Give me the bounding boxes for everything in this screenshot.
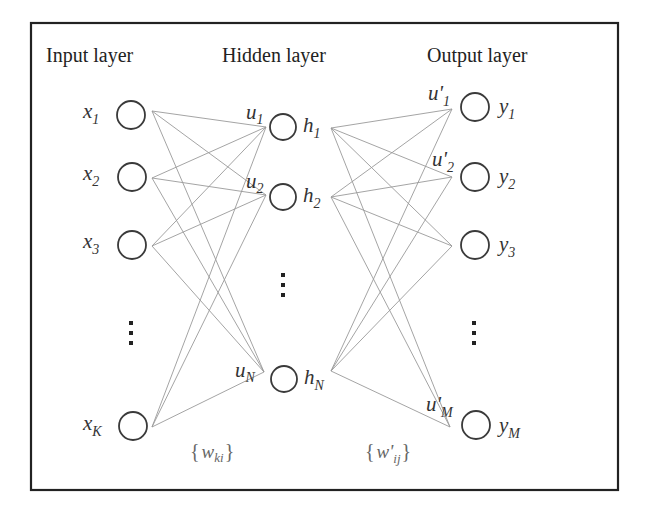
input-neuron-circle [118, 231, 146, 259]
input-node-x1: x1 [82, 99, 145, 129]
connection-edge [331, 177, 452, 371]
output-neuron-circle [461, 93, 489, 121]
input-label: x3 [82, 229, 99, 257]
connection-edge [152, 246, 264, 372]
output-input-label: u'2 [432, 147, 454, 175]
ellipsis-dot [472, 341, 476, 345]
hidden-output-label: h2 [303, 183, 321, 211]
ellipsis-dot [129, 321, 133, 325]
output-neuron-circle [461, 231, 489, 259]
output-input-label: u'1 [428, 81, 450, 109]
hidden-input-label: uN [235, 358, 256, 385]
connection-edge [331, 246, 452, 371]
output-label: y1 [497, 94, 515, 122]
connection-edge [152, 195, 266, 246]
output-layer-heading: Output layer [427, 44, 528, 67]
ellipsis-dot [281, 293, 285, 297]
hidden-node-hN: uN hN [235, 358, 325, 393]
hidden-output-label: h1 [303, 113, 321, 141]
output-node-y2: u'2 y2 [432, 147, 515, 192]
output-label: y2 [497, 164, 515, 192]
ellipsis-dot [129, 341, 133, 345]
output-label: yM [497, 413, 521, 441]
connection-edge [331, 128, 450, 427]
output-ellipsis [472, 321, 476, 345]
hidden-neuron-circle [270, 114, 296, 140]
output-neuron-circle [462, 411, 490, 439]
input-layer-heading: Input layer [46, 44, 134, 67]
ellipsis-dot [472, 331, 476, 335]
input-node-x2: x2 [82, 161, 146, 191]
hidden-layer-heading: Hidden layer [222, 44, 326, 67]
ellipsis-dot [281, 283, 285, 287]
input-node-x3: x3 [82, 229, 146, 259]
input-label: xK [82, 411, 102, 439]
hidden-node-h1: u1 h1 [246, 100, 321, 141]
input-neuron-circle [118, 163, 146, 191]
weight-label-hidden-output: {w'ij} [365, 440, 411, 466]
hidden-input-label: u2 [246, 169, 264, 196]
input-label: x1 [82, 99, 99, 127]
ellipsis-dot [281, 273, 285, 277]
output-node-yM: u'M yM [426, 392, 521, 441]
connection-edge [331, 197, 452, 246]
hidden-neuron-circle [271, 366, 297, 392]
connection-edge [152, 195, 266, 427]
figure-frame [31, 23, 618, 490]
connection-edge [152, 178, 264, 372]
output-neuron-circle [461, 163, 489, 191]
input-node-xK: xK [82, 411, 147, 440]
output-label: y3 [497, 232, 515, 260]
input-ellipsis [129, 321, 133, 345]
input-neuron-circle [119, 412, 147, 440]
ellipsis-dot [129, 331, 133, 335]
output-node-y1: u'1 y1 [428, 81, 515, 122]
hidden-ellipsis [281, 273, 285, 297]
weight-label-input-hidden: {wki} [190, 440, 234, 465]
connection-edge [331, 109, 452, 128]
neural-network-diagram: Input layer Hidden layer Output layer x1… [0, 0, 648, 520]
output-input-label: u'M [426, 392, 454, 420]
hidden-input-label: u1 [246, 100, 264, 127]
connection-edge [331, 177, 452, 197]
connection-edge [152, 111, 264, 372]
input-label: x2 [82, 161, 99, 189]
hidden-output-label: hN [304, 365, 325, 393]
ellipsis-dot [472, 321, 476, 325]
hidden-node-h2: u2 h2 [246, 169, 321, 211]
output-node-y3: y3 [461, 231, 515, 260]
input-neuron-circle [117, 101, 145, 129]
hidden-neuron-circle [270, 184, 296, 210]
